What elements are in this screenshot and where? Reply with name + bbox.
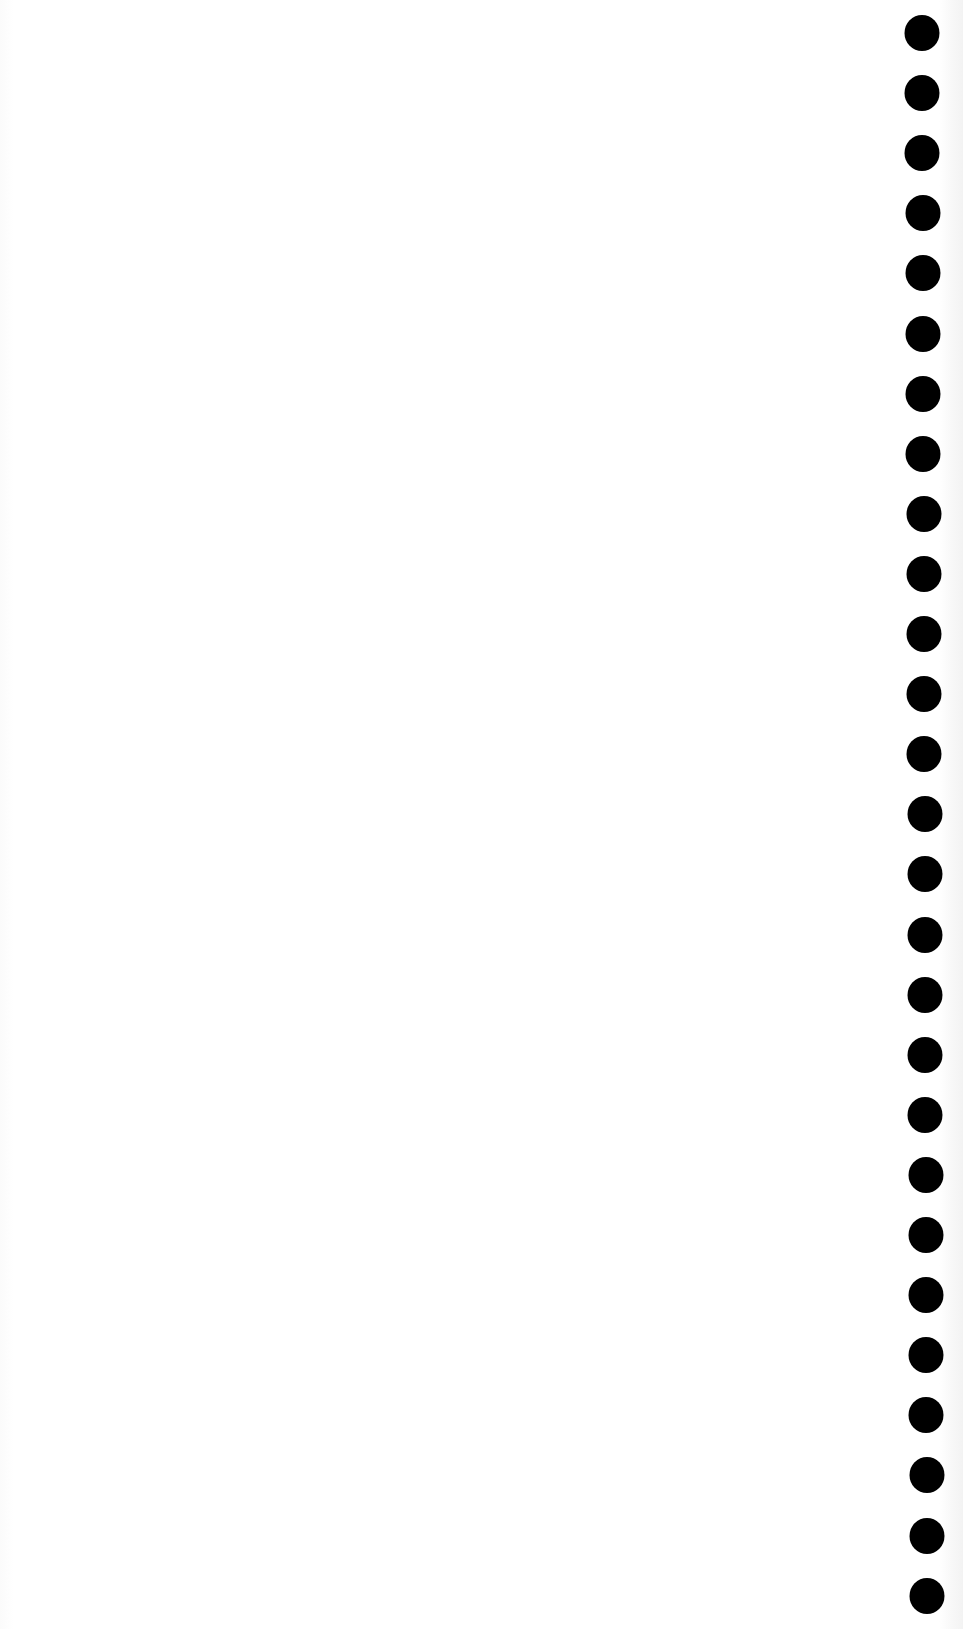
punch-hole	[907, 736, 942, 772]
punch-hole-column	[0, 0, 963, 1629]
punch-hole	[906, 436, 941, 472]
punch-hole	[908, 1217, 943, 1253]
punch-hole	[905, 316, 940, 352]
punch-hole	[905, 135, 940, 171]
punch-hole	[906, 616, 941, 652]
punch-hole	[905, 255, 940, 291]
punch-hole	[908, 977, 943, 1013]
punch-hole	[908, 1037, 943, 1073]
punch-hole	[909, 1457, 944, 1493]
punch-hole	[909, 1397, 944, 1433]
punch-hole	[910, 1578, 945, 1614]
punch-hole	[909, 1277, 944, 1313]
punch-hole	[906, 556, 941, 592]
punch-hole	[907, 796, 942, 832]
punch-hole	[909, 1337, 944, 1373]
punch-hole	[905, 15, 940, 51]
punch-hole	[906, 496, 941, 532]
punch-hole	[908, 1097, 943, 1133]
punch-hole	[906, 376, 941, 412]
punch-hole	[907, 676, 942, 712]
punch-hole	[907, 917, 942, 953]
punch-hole	[905, 75, 940, 111]
punch-hole	[909, 1518, 944, 1554]
punch-hole	[907, 856, 942, 892]
punch-hole	[905, 195, 940, 231]
scanned-page	[0, 0, 963, 1629]
punch-hole	[908, 1157, 943, 1193]
